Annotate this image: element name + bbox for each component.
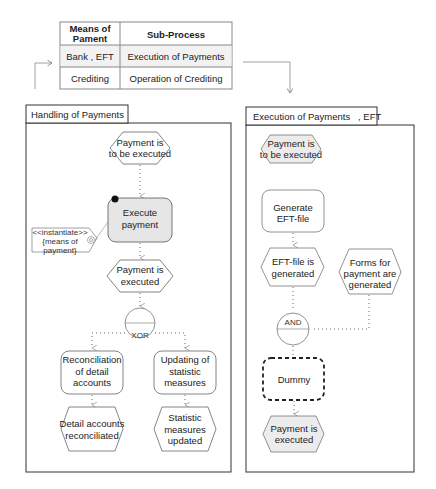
svg-text:executed: executed	[275, 434, 314, 445]
svg-text:Dummy: Dummy	[278, 374, 311, 385]
event-forms-for-payment-generated[interactable]: Forms for payment are generated	[339, 249, 401, 294]
event-payment-to-be-executed-eft[interactable]: Payment is to be executed	[260, 135, 322, 163]
cell-means-crediting: Crediting	[71, 73, 109, 84]
svg-text:Reconciliation: Reconciliation	[62, 354, 121, 365]
svg-text:statistic: statistic	[169, 366, 201, 377]
svg-text:payment: payment	[122, 219, 159, 230]
left-panel-handling-of-payments: Handling of Payments Payment is to be ex…	[26, 105, 231, 472]
and-connector[interactable]: AND	[277, 313, 309, 345]
svg-text:EFT-file: EFT-file	[277, 213, 310, 224]
svg-text:Detail accounts: Detail accounts	[60, 418, 125, 429]
svg-text:Updating of: Updating of	[161, 354, 210, 365]
svg-text:to be executed: to be executed	[260, 149, 322, 160]
svg-text:Forms for: Forms for	[350, 257, 391, 268]
svg-text:updated: updated	[168, 435, 202, 446]
svg-text:measures: measures	[164, 377, 206, 388]
header-means-line2: Pament	[73, 33, 108, 44]
svg-text:AND: AND	[285, 318, 302, 327]
right-panel-execution-of-payments-eft: Execution of Payments , EFT Payment is t…	[246, 107, 414, 472]
mapping-table: Means of Pament Sub-Process Bank , EFT E…	[60, 22, 232, 89]
svg-text:generated: generated	[272, 268, 315, 279]
svg-text:Payment is: Payment is	[271, 423, 318, 434]
left-panel-title: Handling of Payments	[31, 109, 124, 120]
event-statistic-measures-updated[interactable]: Statistic measures updated	[154, 407, 216, 451]
svg-text:EFT-file is: EFT-file is	[272, 256, 314, 267]
start-marker-icon	[112, 196, 119, 203]
svg-text:Execute: Execute	[123, 207, 157, 218]
svg-text:<<instantiate>>: <<instantiate>>	[32, 228, 87, 237]
cell-subprocess-execution: Execution of Payments	[127, 51, 224, 62]
svg-text:Payment is: Payment is	[268, 138, 315, 149]
svg-text:accounts: accounts	[73, 377, 111, 388]
function-reconciliation-of-detail-accounts[interactable]: Reconciliation of detail accounts	[61, 351, 123, 394]
header-subprocess: Sub-Process	[147, 29, 205, 40]
svg-text:reconciliated: reconciliated	[65, 430, 118, 441]
function-updating-of-statistic-measures[interactable]: Updating of statistic measures	[154, 351, 216, 394]
function-execute-payment[interactable]: Execute payment	[108, 196, 172, 243]
event-eft-file-generated[interactable]: EFT-file is generated	[261, 248, 324, 286]
svg-text:executed: executed	[121, 276, 160, 287]
svg-text:payment}: payment}	[43, 246, 77, 255]
svg-text:measures: measures	[164, 424, 206, 435]
event-detail-accounts-reconciliated[interactable]: Detail accounts reconciliated	[60, 407, 125, 451]
cell-means-bank: Bank , EFT	[66, 51, 114, 62]
svg-text:Statistic: Statistic	[168, 412, 202, 423]
svg-text:Payment is: Payment is	[117, 264, 164, 275]
right-panel-title: Execution of Payments , EFT	[253, 111, 381, 122]
svg-text:XOR: XOR	[131, 331, 149, 340]
svg-text:Generate: Generate	[273, 202, 313, 213]
svg-text:payment are: payment are	[344, 268, 397, 279]
function-generate-eft-file[interactable]: Generate EFT-file	[262, 190, 324, 232]
arrow-into-table	[35, 63, 52, 89]
svg-text:{means of: {means of	[42, 237, 78, 246]
svg-text:generated: generated	[349, 279, 392, 290]
svg-text:Payment is: Payment is	[117, 137, 164, 148]
arrow-out-of-table	[243, 62, 290, 93]
svg-text:to be executed: to be executed	[109, 148, 171, 159]
function-dummy[interactable]: Dummy	[263, 358, 324, 400]
epc-diagram: Means of Pament Sub-Process Bank , EFT E…	[0, 0, 436, 489]
svg-text:of detail: of detail	[75, 366, 108, 377]
cell-subprocess-crediting: Operation of Crediting	[130, 73, 223, 84]
event-payment-executed[interactable]: Payment is executed	[107, 260, 173, 292]
event-payment-executed-eft[interactable]: Payment is executed	[263, 416, 324, 452]
